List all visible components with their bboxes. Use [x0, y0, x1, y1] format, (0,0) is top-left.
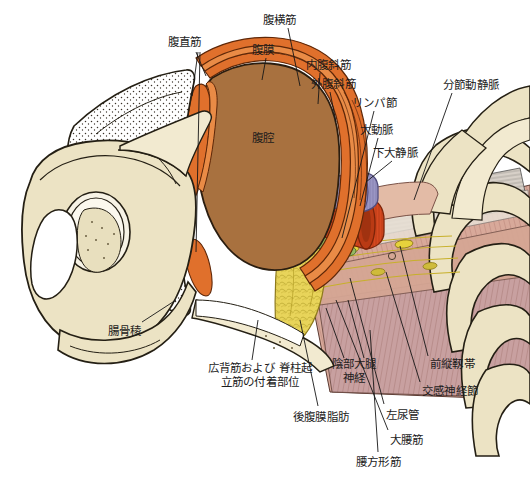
label-left-ureter: 左尿管 [386, 409, 420, 423]
label-caudal-vena-cava: 下大静脈 [373, 147, 418, 161]
label-internal-oblique: 内腹斜筋 [306, 59, 351, 73]
label-sympathetic-ganglion: 交感神経節 [422, 385, 478, 399]
label-external-oblique: 外腹斜筋 [311, 78, 356, 92]
label-peritoneum: 腹膜 [252, 44, 274, 58]
label-lymph-node: リンパ節 [352, 97, 397, 111]
label-rectus-abdominis: 腹直筋 [168, 36, 202, 50]
label-latissimus-erector-attachment: 広背筋および 脊柱起立筋の付着部位 [204, 362, 316, 389]
label-segmental-vessels: 分節動静脈 [443, 79, 499, 93]
label-aorta: 大動脈 [360, 124, 394, 138]
label-quadratus-lumborum: 腰方形筋 [356, 456, 401, 470]
label-anterior-longitudinal-ligament: 前縦靱帯 [430, 358, 475, 372]
anatomy-illustration [0, 0, 530, 486]
label-retroperitoneal-fat: 後腹膜脂肪 [293, 411, 349, 425]
label-psoas-major: 大腰筋 [390, 434, 424, 448]
label-transversus-abdominis: 腹横筋 [263, 14, 297, 28]
anatomy-figure: 腹腔 腹直筋 腹膜 腹横筋 内腹斜筋 外腹斜筋 リンパ節 大動脈 下大静脈 分節… [0, 0, 530, 486]
label-genitofemoral-nerve: 陰部大腿 神経 [326, 358, 382, 385]
cavity-label: 腹腔 [252, 132, 274, 146]
label-iliac-crest: 腸骨稜 [108, 325, 142, 339]
